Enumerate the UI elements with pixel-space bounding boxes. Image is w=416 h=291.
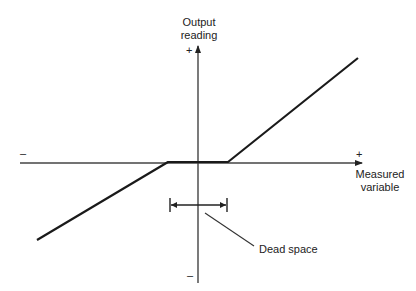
y-axis-positive-sign: +	[186, 45, 192, 56]
x-axis-label-line2: variable	[352, 181, 408, 194]
diagram-canvas	[0, 0, 416, 291]
x-axis-negative-sign: –	[20, 148, 26, 159]
x-axis-positive-sign: +	[356, 149, 362, 160]
x-axis-label-line1: Measured	[352, 168, 408, 181]
y-axis-negative-sign: –	[187, 270, 193, 281]
y-axis-label-line2: reading	[175, 29, 223, 42]
y-axis-label: Output reading	[175, 16, 223, 42]
leader-line	[205, 213, 254, 246]
dead-space-label: Dead space	[259, 243, 318, 256]
y-axis-label-line1: Output	[175, 16, 223, 29]
x-axis-label: Measured variable	[352, 168, 408, 194]
